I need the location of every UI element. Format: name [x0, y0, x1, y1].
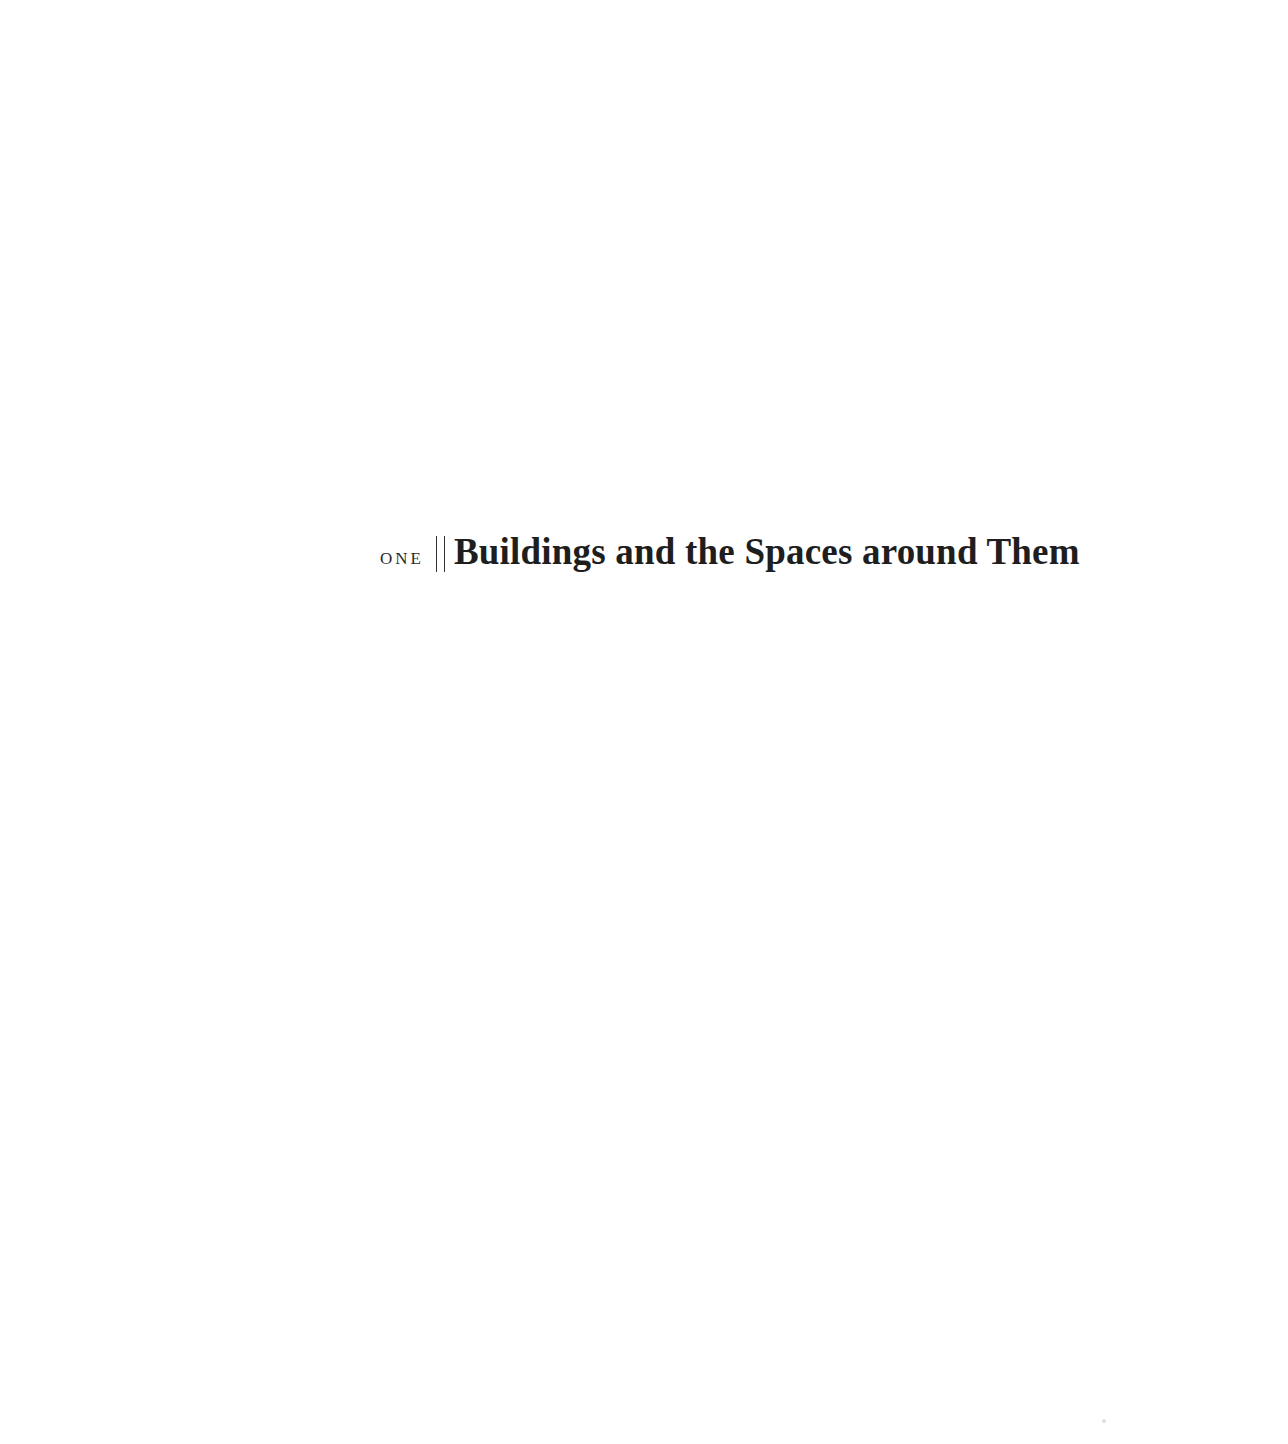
chapter-title: Buildings and the Spaces around Them	[454, 530, 1080, 573]
chapter-number: one	[380, 549, 424, 569]
chapter-heading: one Buildings and the Spaces around Them	[380, 530, 1080, 573]
scan-artifact	[1102, 1419, 1106, 1423]
chapter-divider	[434, 536, 448, 572]
